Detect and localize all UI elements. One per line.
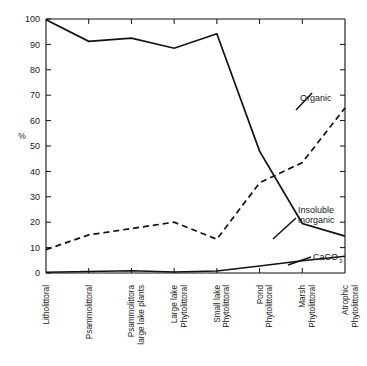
y-axis-title: % <box>18 131 26 141</box>
annotation-caco3-subscript: 3 <box>339 258 343 264</box>
y-axis-ticks-right <box>340 44 345 247</box>
y-tick-label-30: 30 <box>30 192 40 202</box>
annotation-caco3: CaCO 3 <box>313 252 343 264</box>
y-tick-label-20: 20 <box>30 217 40 227</box>
x-axis-ticks-top <box>89 19 303 24</box>
annotation-insoluble-line-2: inorganic <box>298 215 335 225</box>
x-category-label-6-line-0: Marsh <box>298 285 307 308</box>
annotation-caco3-base: CaCO <box>313 252 338 262</box>
x-category-label-4-line-1: Phytolittoral <box>222 285 231 328</box>
x-category-label-0: Litholittoral <box>42 285 51 325</box>
y-tick-label-10: 10 <box>30 243 40 253</box>
x-category-label-3-line-0: Large lake <box>170 285 179 324</box>
chart-container: 0102030405060708090100 LitholittoralPsam… <box>0 0 367 366</box>
x-category-label-3-line-1: Phytolittoral <box>180 285 189 328</box>
x-category-label-5-line-0: Pond <box>256 285 265 305</box>
x-category-label-2-line-1: large lake plants <box>137 285 146 345</box>
y-tick-label-70: 70 <box>30 90 40 100</box>
x-category-label-1: Psammolittoral <box>85 285 94 339</box>
y-tick-label-90: 90 <box>30 40 40 50</box>
x-category-label-6-line-1: Phytolittoral <box>308 285 317 328</box>
y-tick-label-60: 60 <box>30 116 40 126</box>
x-axis-category-labels: LitholittoralPsammolittoralPsammolittora… <box>42 285 360 345</box>
series-line-caco3 <box>46 256 345 272</box>
series-line-organic <box>46 108 345 250</box>
y-tick-label-100: 100 <box>25 14 40 24</box>
leader-insoluble-inorganic <box>273 218 296 239</box>
x-category-label-4-line-0: Small lake <box>213 285 222 323</box>
series-line-insoluble-inorganic <box>46 20 345 236</box>
x-category-label-7-line-0: Atrophic <box>341 285 350 315</box>
x-category-label-5-line-1: Phytolittoral <box>265 285 274 328</box>
annotation-insoluble-line-1: Insoluble <box>298 205 334 215</box>
series-group <box>46 20 345 272</box>
line-chart: 0102030405060708090100 LitholittoralPsam… <box>0 0 367 366</box>
y-tick-label-80: 80 <box>30 65 40 75</box>
plot-frame <box>46 19 345 273</box>
x-category-label-7-line-1: Phytolittoral <box>351 285 360 328</box>
y-tick-label-0: 0 <box>35 268 40 278</box>
annotation-insoluble-inorganic: Insoluble inorganic <box>298 205 335 225</box>
y-tick-label-40: 40 <box>30 167 40 177</box>
y-tick-label-50: 50 <box>30 141 40 151</box>
y-axis-ticks: 0102030405060708090100 <box>25 14 51 278</box>
x-category-label-2-line-0: Psammolittora <box>127 285 136 338</box>
annotation-organic: Organic <box>300 93 332 103</box>
